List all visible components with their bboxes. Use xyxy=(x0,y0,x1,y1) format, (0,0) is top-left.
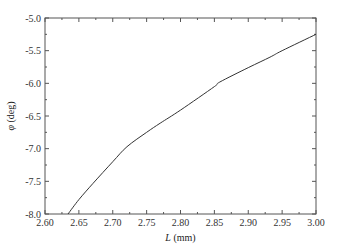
x-tick-label: 2.70 xyxy=(104,217,122,228)
data-line xyxy=(68,34,316,214)
y-tick-label: -5.0 xyxy=(25,13,41,24)
y-tick-label: -8.0 xyxy=(25,209,41,220)
y-tick-label: -7.0 xyxy=(25,143,41,154)
x-tick-labels: 2.602.652.702.752.802.852.902.953.00 xyxy=(36,217,325,228)
x-tick-label: 2.85 xyxy=(206,217,224,228)
plot-frame xyxy=(45,18,316,214)
y-axis-unit: (deg) xyxy=(5,101,17,125)
x-tick-label: 2.65 xyxy=(70,217,88,228)
x-tick-label: 2.90 xyxy=(240,217,258,228)
x-tick-label: 3.00 xyxy=(307,217,325,228)
y-axis-label: φ (deg) xyxy=(5,101,17,130)
y-tick-label: -7.5 xyxy=(25,176,41,187)
line-chart: 2.602.652.702.752.802.852.902.953.00 -5.… xyxy=(0,0,338,248)
x-tick-label: 2.75 xyxy=(138,217,156,228)
x-axis-label: L (mm) xyxy=(164,232,195,244)
x-axis-unit: (mm) xyxy=(171,232,196,244)
y-tick-label: -6.5 xyxy=(25,111,41,122)
x-tick-label: 2.80 xyxy=(172,217,190,228)
y-tick-labels: -5.0-5.5-6.0-6.5-7.0-7.5-8.0 xyxy=(25,13,41,220)
y-tick-label: -6.0 xyxy=(25,78,41,89)
axis-ticks xyxy=(45,18,316,214)
x-tick-label: 2.95 xyxy=(273,217,291,228)
y-tick-label: -5.5 xyxy=(25,45,41,56)
